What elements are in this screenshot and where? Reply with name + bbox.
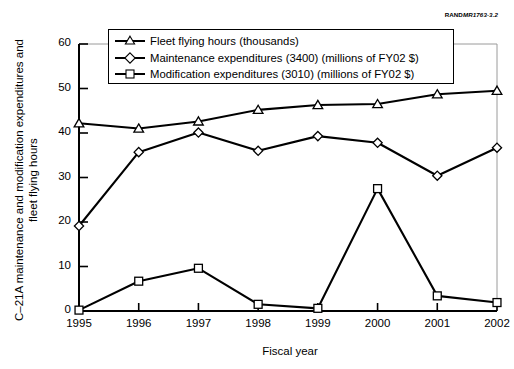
data-point-marker <box>433 171 442 180</box>
data-point-marker <box>314 304 322 312</box>
data-point-marker <box>194 128 203 137</box>
chart-legend: Fleet flying hours (thousands) Maintenan… <box>108 29 454 84</box>
y-tick-label: 30 <box>33 170 71 182</box>
x-axis-title: Fiscal year <box>75 345 505 357</box>
y-tick-label: 40 <box>33 125 71 137</box>
data-point-marker <box>492 143 501 152</box>
legend-item-0: Fleet flying hours (thousands) <box>115 33 447 50</box>
x-tick-label: 1998 <box>236 317 280 329</box>
x-tick-label: 1997 <box>176 317 220 329</box>
data-series-group <box>74 86 502 314</box>
y-tick-label: 0 <box>33 303 71 315</box>
x-tick-label: 1995 <box>57 317 101 329</box>
y-tick-label: 50 <box>33 81 71 93</box>
x-tick-label: 2002 <box>475 317 514 329</box>
data-point-marker <box>254 146 263 155</box>
legend-item-2: Modification expenditures (3010) (millio… <box>115 66 447 83</box>
y-tick-label: 10 <box>33 259 71 271</box>
triangle-marker-icon <box>115 34 145 48</box>
x-tick-label: 2001 <box>415 317 459 329</box>
legend-label-2: Modification expenditures (3010) (millio… <box>150 68 414 80</box>
data-point-marker <box>254 300 262 308</box>
data-point-marker <box>194 264 202 272</box>
x-tick-label: 1999 <box>296 317 340 329</box>
legend-label-0: Fleet flying hours (thousands) <box>150 35 299 47</box>
x-tick-label: 1996 <box>117 317 161 329</box>
series-line-1 <box>79 133 497 226</box>
y-tick-label: 60 <box>33 36 71 48</box>
data-point-marker <box>493 299 501 307</box>
data-point-marker <box>374 185 382 193</box>
legend-item-1: Maintenance expenditures (3400) (million… <box>115 50 447 67</box>
data-point-marker <box>373 138 382 147</box>
legend-label-1: Maintenance expenditures (3400) (million… <box>150 52 419 64</box>
square-marker-icon <box>115 67 145 81</box>
data-point-marker <box>75 306 83 314</box>
diamond-marker-icon <box>115 51 145 65</box>
data-point-marker <box>433 292 441 300</box>
data-point-marker <box>313 132 322 141</box>
y-tick-label: 20 <box>33 214 71 226</box>
data-point-marker <box>135 277 143 285</box>
x-tick-label: 2000 <box>356 317 400 329</box>
